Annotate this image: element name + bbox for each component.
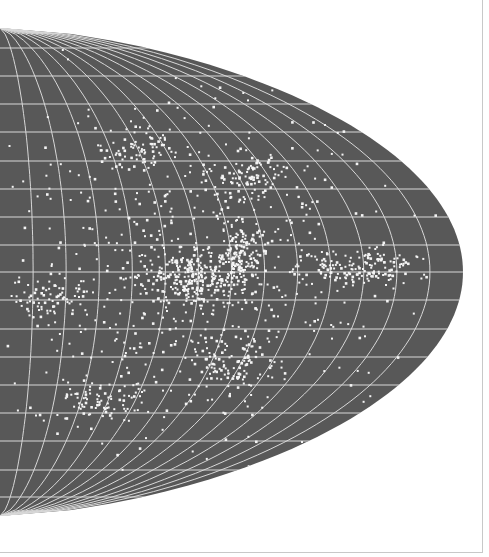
sky-map [0, 0, 489, 557]
frame-border-bottom [0, 552, 483, 553]
frame-border-right [482, 0, 483, 553]
